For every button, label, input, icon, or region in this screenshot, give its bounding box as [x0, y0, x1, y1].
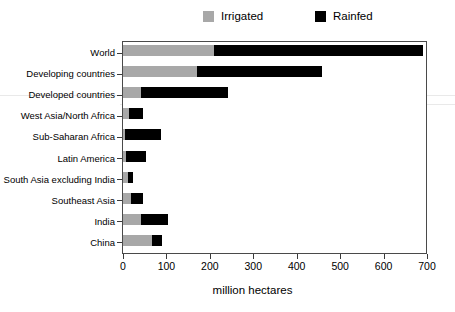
- x-axis-tick-label: 300: [245, 260, 263, 272]
- x-axis-tick: [210, 254, 211, 259]
- y-axis-label: West Asia/North Africa: [21, 105, 115, 126]
- x-axis-tick-labels: 0100200300400500600700: [0, 260, 455, 274]
- y-axis-label: Southeast Asia: [52, 190, 115, 211]
- stacked-bar[interactable]: [123, 214, 168, 225]
- x-axis-tick-label: 700: [418, 260, 436, 272]
- stacked-bar[interactable]: [123, 172, 133, 183]
- x-axis-title-text: million hectares: [163, 284, 293, 296]
- bar-segment-rainfed: [125, 129, 161, 140]
- bar-segment-rainfed: [152, 235, 162, 246]
- bar-segment-irrigated: [123, 45, 214, 56]
- stacked-bar[interactable]: [123, 235, 162, 246]
- x-axis-tick-label: 0: [120, 260, 126, 272]
- bar-segment-rainfed: [141, 87, 228, 98]
- x-axis-tick: [297, 254, 298, 259]
- bar-row[interactable]: [123, 148, 427, 169]
- bar-segment-rainfed: [126, 151, 146, 162]
- bar-row[interactable]: [123, 105, 427, 126]
- bar-segment-irrigated: [123, 193, 131, 204]
- bar-row[interactable]: [123, 84, 427, 105]
- stacked-bar[interactable]: [123, 87, 228, 98]
- legend-swatch-irrigated: [203, 11, 214, 22]
- bar-segment-rainfed: [214, 45, 423, 56]
- x-axis-tick: [427, 254, 428, 259]
- legend-item-irrigated[interactable]: Irrigated: [203, 8, 263, 24]
- x-axis-tick: [253, 254, 254, 259]
- y-axis-label: South Asia excluding India: [4, 169, 115, 190]
- legend-label-irrigated: Irrigated: [221, 10, 263, 22]
- chart-legend: Irrigated Rainfed: [0, 8, 455, 28]
- y-axis-labels: WorldDeveloping countriesDeveloped count…: [0, 42, 119, 253]
- stacked-bar[interactable]: [123, 45, 423, 56]
- y-axis-label: World: [90, 42, 115, 63]
- y-axis-label: Developed countries: [28, 84, 115, 105]
- stacked-bar[interactable]: [123, 108, 143, 119]
- bar-segment-rainfed: [131, 193, 143, 204]
- bar-segment-irrigated: [123, 214, 141, 225]
- bar-row[interactable]: [123, 232, 427, 253]
- bar-row[interactable]: [123, 169, 427, 190]
- x-axis-tick: [340, 254, 341, 259]
- y-axis-label: India: [94, 211, 115, 232]
- x-axis-tick-label: 400: [288, 260, 306, 272]
- x-axis-tick: [384, 254, 385, 259]
- bar-segment-rainfed: [128, 172, 133, 183]
- bars-layer: [123, 42, 427, 253]
- y-axis-label: Sub-Saharan Africa: [33, 126, 115, 147]
- bar-row[interactable]: [123, 42, 427, 63]
- bar-segment-irrigated: [123, 87, 141, 98]
- bar-row[interactable]: [123, 63, 427, 84]
- x-axis-title: million hectares: [0, 283, 455, 297]
- legend-item-rainfed[interactable]: Rainfed: [315, 8, 373, 24]
- bar-segment-irrigated: [123, 235, 152, 246]
- bar-chart: Irrigated Rainfed WorldDeveloping countr…: [0, 0, 455, 312]
- bar-row[interactable]: [123, 211, 427, 232]
- bar-row[interactable]: [123, 190, 427, 211]
- legend-label-rainfed: Rainfed: [333, 10, 373, 22]
- bar-segment-rainfed: [197, 66, 323, 77]
- y-axis-label: China: [90, 232, 115, 253]
- x-axis-tick: [166, 254, 167, 259]
- legend-swatch-rainfed: [315, 11, 326, 22]
- bar-segment-irrigated: [123, 66, 197, 77]
- bar-row[interactable]: [123, 126, 427, 147]
- x-axis-tick-label: 200: [201, 260, 219, 272]
- x-axis-tick: [123, 254, 124, 259]
- stacked-bar[interactable]: [123, 151, 146, 162]
- bar-segment-rainfed: [129, 108, 143, 119]
- y-axis-label: Latin America: [57, 148, 115, 169]
- bar-segment-rainfed: [141, 214, 168, 225]
- x-axis-tick-label: 500: [331, 260, 349, 272]
- x-axis-tick-label: 100: [158, 260, 176, 272]
- stacked-bar[interactable]: [123, 129, 161, 140]
- stacked-bar[interactable]: [123, 193, 143, 204]
- y-axis-label: Developing countries: [26, 63, 115, 84]
- stacked-bar[interactable]: [123, 66, 322, 77]
- x-axis-tick-label: 600: [375, 260, 393, 272]
